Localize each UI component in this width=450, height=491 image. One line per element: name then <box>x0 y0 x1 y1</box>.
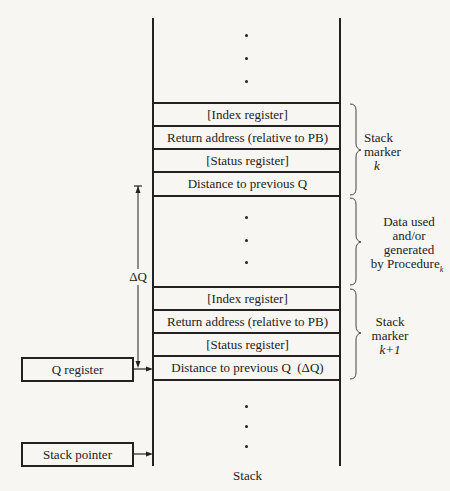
data-label-line2: and/or <box>368 229 450 243</box>
q-register-box: Q register <box>21 357 134 382</box>
data-label-procedure: by Procedure <box>371 256 440 271</box>
data-label-line4: by Procedurek <box>364 257 450 277</box>
stack-pointer-box: Stack pointer <box>21 442 134 467</box>
delta-q-label: ΔQ <box>124 270 152 284</box>
marker-k1-brace-label: Stack marker k+1 <box>370 315 410 357</box>
marker-k1-label-line1: Stack <box>370 315 410 329</box>
marker-k1-label-line2: marker <box>370 329 410 343</box>
data-label-line1: Data used <box>368 215 450 229</box>
data-section-brace-label: Data used and/or generated by Procedurek <box>368 215 450 277</box>
q-register-label: Q register <box>52 362 104 377</box>
data-label-subscript: k <box>440 265 444 274</box>
marker-k-label-line1: Stack <box>364 131 401 145</box>
marker-k-brace-label: Stack marker k <box>364 131 401 173</box>
marker-k1-label-line3: k+1 <box>370 343 410 357</box>
stack-pointer-label: Stack pointer <box>43 447 112 462</box>
marker-k-label-line3: k <box>364 159 401 173</box>
data-label-line3: generated <box>368 243 450 257</box>
marker-k-label-line2: marker <box>364 145 401 159</box>
